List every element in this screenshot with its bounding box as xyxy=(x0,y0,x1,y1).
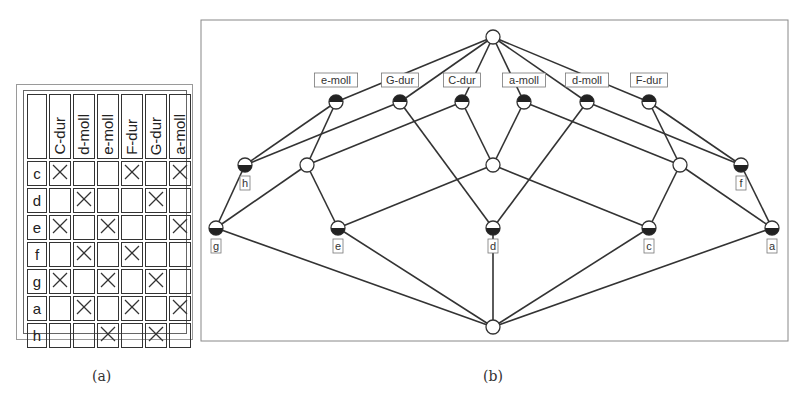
lattice-node-f xyxy=(734,158,748,172)
lattice-node-w3 xyxy=(673,158,687,172)
node-label: a-moll xyxy=(509,74,539,86)
lattice-node-h xyxy=(238,158,252,172)
lattice-node-F-dur xyxy=(642,95,656,109)
lattice-node-a-moll xyxy=(517,95,531,109)
node-label: g xyxy=(213,240,219,252)
lattice-edge xyxy=(649,165,680,228)
node-label: C-dur xyxy=(448,74,476,86)
lattice-node-w1 xyxy=(300,158,314,172)
lattice-node-c xyxy=(642,221,656,235)
node-label: e xyxy=(335,240,341,252)
node-label: d xyxy=(490,240,496,252)
lattice-node-d-moll xyxy=(580,95,594,109)
lattice-edge xyxy=(493,102,587,228)
lattice-edge xyxy=(493,37,649,102)
lattice-edge xyxy=(493,228,772,327)
lattice-node-d xyxy=(486,221,500,235)
lattice-node-w2 xyxy=(486,158,500,172)
caption-b: (b) xyxy=(483,368,503,384)
node-label: h xyxy=(242,177,248,189)
lattice-edge xyxy=(493,228,649,327)
lattice-edge xyxy=(649,102,680,165)
lattice-edge xyxy=(680,165,772,228)
lattice-node-e xyxy=(331,221,345,235)
lattice-node-bottom xyxy=(486,320,500,334)
concept-lattice-diagram: e-mollG-durC-dura-molld-mollF-durhfgedca xyxy=(0,0,806,410)
node-label: a xyxy=(769,240,776,252)
lattice-edge xyxy=(741,165,772,228)
lattice-node-top xyxy=(486,30,500,44)
lattice-node-g xyxy=(209,221,223,235)
lattice-edge xyxy=(338,228,493,327)
node-label: c xyxy=(646,240,652,252)
node-label: F-dur xyxy=(636,74,663,86)
lattice-edge xyxy=(462,102,493,165)
node-label: G-dur xyxy=(386,74,414,86)
lattice-node-a xyxy=(765,221,779,235)
lattice-node-e-moll xyxy=(329,95,343,109)
lattice-node-C-dur xyxy=(455,95,469,109)
lattice-edge xyxy=(462,37,493,102)
lattice-edge xyxy=(307,165,338,228)
lattice-node-G-dur xyxy=(393,95,407,109)
lattice-edge xyxy=(493,102,524,165)
node-label: d-moll xyxy=(572,74,602,86)
lattice-edge xyxy=(216,228,493,327)
lattice-frame xyxy=(201,20,788,341)
node-label: e-moll xyxy=(321,74,351,86)
